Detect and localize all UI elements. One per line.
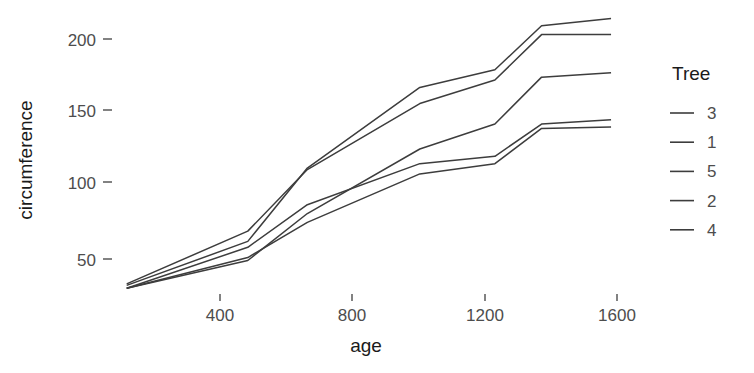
x-tick-label: 1200 [466, 306, 504, 325]
line-chart: 50 100 150 200 circumference 400 800 120… [0, 0, 754, 373]
y-tick-label: 200 [68, 31, 96, 50]
x-tick-label: 800 [338, 306, 366, 325]
y-tick-label: 100 [68, 174, 96, 193]
chart-panel: 50 100 150 200 circumference 400 800 120… [0, 0, 754, 373]
y-axis-title: circumference [15, 100, 36, 219]
x-tick-label: 400 [206, 306, 234, 325]
legend-label-5[interactable]: 5 [707, 162, 716, 181]
x-tick-label: 1600 [598, 306, 636, 325]
legend-label-4[interactable]: 4 [707, 221, 716, 240]
legend-label-2[interactable]: 2 [707, 192, 716, 211]
y-tick-label: 150 [68, 102, 96, 121]
y-tick-label: 50 [77, 251, 96, 270]
chart-background [0, 0, 754, 373]
x-axis-title: age [350, 335, 382, 356]
legend-label-1[interactable]: 1 [707, 133, 716, 152]
legend-title: Tree [672, 63, 710, 84]
legend-label-3[interactable]: 3 [707, 104, 716, 123]
